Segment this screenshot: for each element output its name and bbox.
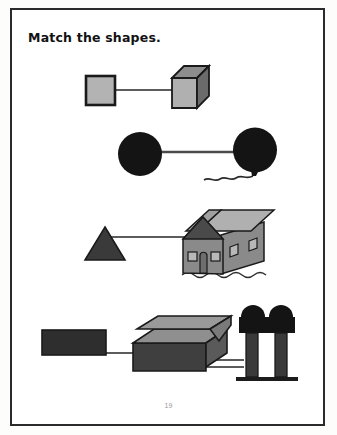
row-1-illustration: [78, 60, 228, 116]
match-row-rectangle-box: [36, 305, 301, 387]
tree-trunk: [246, 333, 258, 377]
match-row-triangle-house: [78, 205, 283, 285]
row-4-illustration: [36, 305, 301, 387]
house-window: [188, 252, 197, 261]
balloon-body: [233, 128, 277, 173]
page-title: Match the shapes.: [28, 30, 161, 45]
row-2-illustration: [112, 122, 287, 190]
rectangle-shape[interactable]: [42, 330, 106, 355]
tree-foliage: [269, 305, 293, 329]
balloon-string: [204, 176, 253, 180]
row-3-illustration: [78, 205, 283, 285]
tree-foliage: [241, 305, 265, 329]
circle-shape[interactable]: [118, 132, 162, 176]
balloon-knot: [251, 170, 259, 176]
box-front-face: [133, 343, 206, 371]
tree-ground-line: [236, 377, 298, 381]
match-row-circle-balloon: [112, 122, 287, 190]
match-row-square-cube: [78, 60, 228, 116]
house-shape[interactable]: [182, 210, 274, 278]
cube-shape[interactable]: [172, 66, 209, 108]
worksheet-page: Match the shapes.: [0, 0, 337, 435]
tree-trunk: [275, 333, 287, 377]
triangle-shape[interactable]: [85, 227, 125, 260]
box-shape[interactable]: [133, 316, 231, 371]
page-number: 19: [0, 402, 337, 409]
house-window: [211, 252, 220, 261]
house-door: [200, 252, 207, 273]
house-window: [249, 238, 257, 251]
trees-shape[interactable]: [236, 305, 298, 381]
cube-front-face: [172, 78, 197, 108]
balloon-shape[interactable]: [204, 128, 277, 181]
house-window: [230, 244, 238, 257]
square-shape[interactable]: [86, 76, 115, 105]
